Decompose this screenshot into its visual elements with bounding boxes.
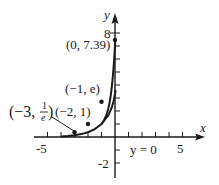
x-tick-label-5: 5	[177, 141, 184, 156]
point-label-neg2: (−2, 1)	[55, 104, 91, 119]
svg-text:1: 1	[42, 100, 47, 111]
asymptote-label: y = 0	[130, 142, 157, 157]
leader-line	[52, 117, 74, 131]
svg-text:(−3,: (−3,	[9, 103, 35, 121]
point-neg2	[86, 122, 90, 126]
point-neg1	[99, 100, 103, 104]
svg-text:): )	[48, 103, 53, 121]
svg-text:e: e	[41, 112, 46, 123]
point-zero	[113, 38, 117, 42]
point-label-neg1: (−1, e)	[65, 81, 100, 96]
y-axis-label: y	[102, 7, 110, 22]
exponential-curve-upper	[102, 40, 116, 124]
x-axis-label: x	[199, 120, 206, 135]
point-label-neg3: (−3, 1 e )	[9, 100, 53, 123]
y-tick-label-neg2: -2	[98, 156, 109, 171]
exponential-graph: y x 8 -2 -5 5 y = 0 (0, 7.39) (−1, e) (−…	[0, 0, 219, 185]
x-tick-label-neg5: -5	[36, 141, 47, 156]
point-label-zero: (0, 7.39)	[66, 37, 110, 52]
